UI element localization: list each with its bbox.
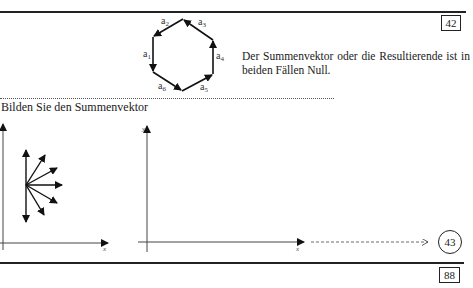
vector-fan [26,150,62,222]
label-a2: a2 [161,15,169,28]
dotted-separator [0,98,334,99]
left-coordinate-system: x [0,124,108,253]
right-x-label: x [295,245,300,253]
instruction-text: Bilden Sie den Summenvektor [1,100,148,115]
reference-circle-43[interactable]: 43 [438,230,462,254]
right-y-label: y [141,125,146,133]
right-coordinate-system: y x [138,125,304,253]
answer-text: Der Summenvektor oder die Resultierende … [242,49,470,77]
label-a5: a5 [200,81,208,94]
figures-canvas: a2 a3 a1 a4 a6 a5 x y x [0,0,473,288]
left-x-label: x [102,245,107,253]
label-a3: a3 [198,16,206,29]
label-a6: a6 [158,80,166,93]
bottom-rule [0,262,464,264]
page-number-box-bottom: 88 [439,267,460,283]
label-a1: a1 [143,48,151,61]
label-a4: a4 [216,50,224,63]
